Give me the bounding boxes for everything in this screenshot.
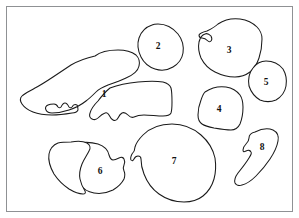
piece-label-7: 7: [172, 156, 177, 166]
pieces-group: [21, 19, 287, 202]
piece-label-4: 4: [217, 104, 222, 114]
specimen-piece-8: [235, 129, 279, 185]
specimen-piece-2: [138, 24, 183, 70]
piece-label-3: 3: [227, 45, 232, 55]
figure-root: 12345678: [0, 0, 299, 218]
piece-label-8: 8: [260, 142, 265, 152]
specimen-plate-drawing: 12345678: [0, 0, 299, 218]
piece-label-2: 2: [156, 41, 161, 51]
piece-label-1: 1: [102, 89, 107, 99]
piece-label-5: 5: [264, 77, 269, 87]
piece-label-6: 6: [98, 166, 103, 176]
